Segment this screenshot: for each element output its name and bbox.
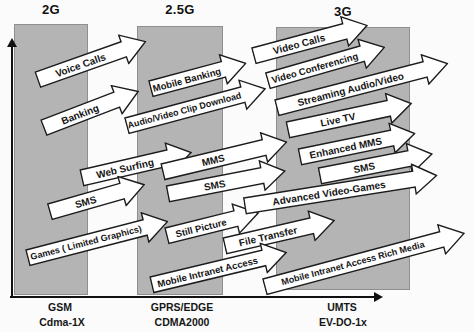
- generation-label-2g: 2G: [14, 2, 88, 17]
- tech-label-cdma-1x: Cdma-1X: [20, 316, 104, 328]
- y-axis-arrowhead-icon: [7, 38, 17, 47]
- generation-label-25g: 2.5G: [137, 2, 223, 17]
- tech-label-ev-do-1x: EV-DO-1x: [293, 316, 393, 328]
- tech-label-gsm: GSM: [20, 301, 100, 313]
- tech-label-cdma2000: CDMA2000: [132, 316, 232, 328]
- mobile-generations-diagram: 2G 2.5G 3G Voice Calls Banking Mobile Ba…: [0, 0, 474, 332]
- y-axis-line: [11, 46, 13, 297]
- tech-label-gprs-edge: GPRS/EDGE: [132, 301, 232, 313]
- tech-label-umts: UMTS: [292, 301, 392, 313]
- x-axis-line: [10, 296, 376, 298]
